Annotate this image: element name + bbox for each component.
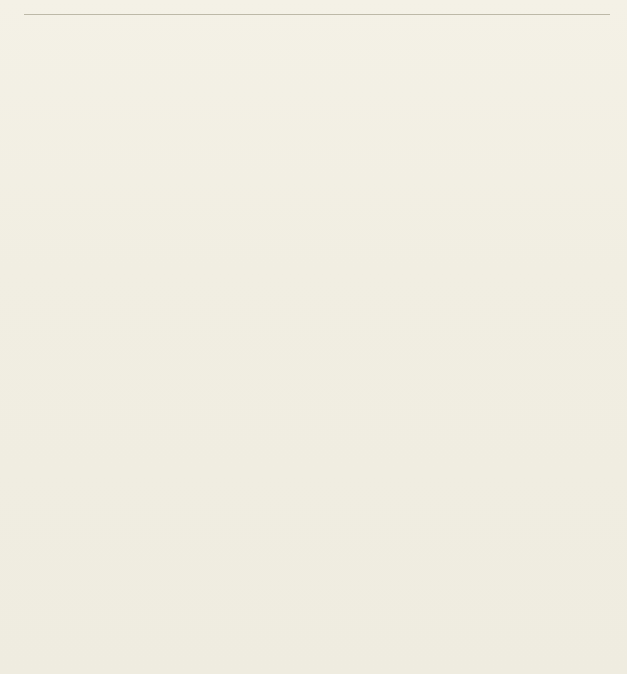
title-rule xyxy=(24,14,610,15)
top-chart-container xyxy=(0,34,627,386)
top-chart-svg xyxy=(0,34,627,386)
bottom-chart-svg xyxy=(0,386,627,674)
bottom-chart-container xyxy=(0,386,627,674)
